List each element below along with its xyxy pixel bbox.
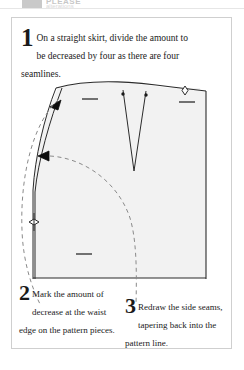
dart-dot-right [144,93,147,96]
step-3-text: Redraw the side seams, tapering back int… [125,302,222,348]
pattern-body-fill [33,83,206,278]
step-3-number: 3 [125,297,138,315]
running-header: PLEASE alterations [0,0,244,9]
step-2: 2 Mark the amount of decrease at the wai… [19,283,115,337]
header-divider [0,8,244,9]
pattern-diagram [0,66,244,306]
page-root: PLEASE alterations 1 On a straight skirt… [0,0,244,370]
step-2-number: 2 [19,284,32,302]
header-color-swatch [22,0,42,8]
step-2-text: Mark the amount of decrease at the waist… [19,289,115,335]
dart-dot-left [121,92,124,95]
step-1-number: 1 [21,28,37,49]
step-3: 3 Redraw the side seams, tapering back i… [125,296,225,350]
